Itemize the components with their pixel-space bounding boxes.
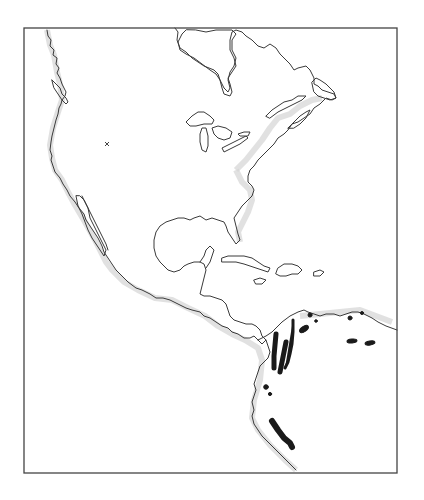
puerto-rico: [314, 270, 324, 276]
map-canvas: [0, 0, 424, 500]
range-santa-marta: [298, 324, 309, 334]
coastal-stipple: [47, 30, 392, 470]
range-venezuela-interior-1: [347, 339, 357, 344]
jamaica: [254, 278, 266, 284]
lake-michigan: [200, 128, 208, 152]
great-lakes: [186, 112, 250, 152]
lake-huron: [212, 126, 232, 140]
range-venezuela-coast-dot: [348, 316, 352, 320]
lake-ontario: [238, 132, 250, 136]
range-peru-andes: [272, 421, 292, 447]
range-north-coast-dot-2: [315, 320, 318, 323]
map-frame: [24, 28, 397, 473]
range-ecuador-dot-2: [268, 392, 271, 395]
species-range: [264, 312, 376, 448]
distribution-map: [0, 0, 424, 500]
range-ecuador-dot-1: [264, 385, 269, 390]
hispaniola: [276, 264, 302, 276]
coastlines: [47, 28, 397, 470]
type-locality-marker: [105, 142, 109, 146]
range-western-cordillera: [274, 334, 276, 368]
range-venezuela-interior-2: [365, 340, 376, 346]
lake-superior: [186, 112, 214, 126]
range-north-coast-dot-1: [308, 313, 312, 317]
cuba: [222, 256, 270, 272]
range-venezuela-coast-dot-2: [361, 312, 364, 315]
